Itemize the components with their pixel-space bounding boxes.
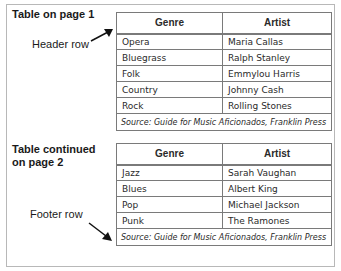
table-row: BluegrassRalph Stanley bbox=[117, 50, 332, 66]
footer-row: Source: Guide for Music Aficionados, Fra… bbox=[117, 114, 332, 131]
artist-cell: Rolling Stones bbox=[223, 98, 332, 114]
header-row-label: Header row bbox=[32, 38, 89, 51]
column-header-artist: Artist bbox=[223, 144, 332, 165]
column-header-artist: Artist bbox=[223, 13, 332, 34]
source-note: Source: Guide for Music Aficionados, Fra… bbox=[117, 114, 332, 131]
table1-title: Table on page 1 bbox=[12, 8, 94, 21]
artist-cell: Sarah Vaughan bbox=[223, 165, 332, 181]
genre-cell: Jazz bbox=[117, 165, 223, 181]
table-row: OperaMaria Callas bbox=[117, 34, 332, 50]
genre-cell: Country bbox=[117, 82, 223, 98]
table2-title-line1: Table continued bbox=[12, 143, 96, 156]
table-row: JazzSarah Vaughan bbox=[117, 165, 332, 181]
genre-cell: Pop bbox=[117, 197, 223, 213]
table-row: BluesAlbert King bbox=[117, 181, 332, 197]
genre-cell: Blues bbox=[117, 181, 223, 197]
table-page-2: Genre Artist JazzSarah Vaughan BluesAlbe… bbox=[116, 143, 332, 246]
table2-title-line2: on page 2 bbox=[12, 156, 63, 169]
genre-cell: Punk bbox=[117, 213, 223, 229]
table-row: FolkEmmylou Harris bbox=[117, 66, 332, 82]
table-row: RockRolling Stones bbox=[117, 98, 332, 114]
genre-cell: Folk bbox=[117, 66, 223, 82]
artist-cell: The Ramones bbox=[223, 213, 332, 229]
table-page-1: Genre Artist OperaMaria Callas Bluegrass… bbox=[116, 12, 332, 131]
table-row: PunkThe Ramones bbox=[117, 213, 332, 229]
artist-cell: Emmylou Harris bbox=[223, 66, 332, 82]
header-row: Genre Artist bbox=[117, 144, 332, 165]
genre-cell: Opera bbox=[117, 34, 223, 50]
footer-row: Source: Guide for Music Aficionados, Fra… bbox=[117, 229, 332, 246]
column-header-genre: Genre bbox=[117, 144, 223, 165]
source-note: Source: Guide for Music Aficionados, Fra… bbox=[117, 229, 332, 246]
column-header-genre: Genre bbox=[117, 13, 223, 34]
artist-cell: Johnny Cash bbox=[223, 82, 332, 98]
arrow-to-header-icon bbox=[90, 28, 115, 43]
arrow-to-footer-icon bbox=[88, 222, 114, 244]
table-row: PopMichael Jackson bbox=[117, 197, 332, 213]
table-row: CountryJohnny Cash bbox=[117, 82, 332, 98]
artist-cell: Albert King bbox=[223, 181, 332, 197]
artist-cell: Ralph Stanley bbox=[223, 50, 332, 66]
genre-cell: Bluegrass bbox=[117, 50, 223, 66]
header-row: Genre Artist bbox=[117, 13, 332, 34]
artist-cell: Maria Callas bbox=[223, 34, 332, 50]
footer-row-label: Footer row bbox=[30, 208, 83, 221]
artist-cell: Michael Jackson bbox=[223, 197, 332, 213]
genre-cell: Rock bbox=[117, 98, 223, 114]
